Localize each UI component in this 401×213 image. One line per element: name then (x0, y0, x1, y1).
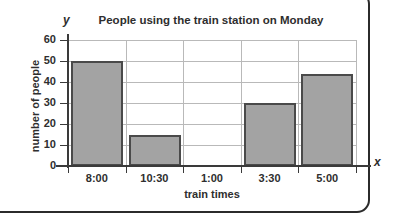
x-axis-line (56, 165, 371, 167)
bar-chart-figure: People using the train station on Monday… (0, 0, 401, 209)
x-tick-label-8:00: 8:00 (68, 172, 126, 184)
x-tick-label-3:30: 3:30 (241, 172, 299, 184)
chart-title: People using the train station on Monday (86, 14, 336, 26)
x-axis-title: train times (68, 188, 356, 200)
y-tick-label: 30 (22, 96, 56, 108)
gridline-vertical (241, 40, 242, 166)
bar-5:00 (301, 74, 353, 166)
plot-area (68, 40, 356, 166)
y-tick-mark (60, 82, 68, 83)
y-tick-label: 60 (22, 33, 56, 45)
bar-3:30 (244, 103, 296, 166)
gridline-vertical (298, 40, 299, 166)
gridline-vertical (183, 40, 184, 166)
bar-8:00 (71, 61, 123, 166)
y-axis-line (67, 34, 69, 168)
y-tick-label: 50 (22, 54, 56, 66)
y-tick-mark (60, 40, 68, 41)
x-tick-mark (356, 166, 357, 173)
y-tick-label: 20 (22, 117, 56, 129)
y-tick-mark (60, 103, 68, 104)
x-axis-symbol: x (374, 155, 381, 169)
y-tick-label: 10 (22, 138, 56, 150)
gridline-vertical (126, 40, 127, 166)
gridline-vertical (356, 40, 357, 166)
x-tick-label-1:00: 1:00 (183, 172, 241, 184)
y-axis-symbol: y (63, 13, 70, 27)
x-tick-label-10:30: 10:30 (126, 172, 184, 184)
x-tick-label-5:00: 5:00 (298, 172, 356, 184)
gridline-horizontal (68, 40, 356, 41)
y-tick-mark (60, 166, 68, 167)
y-tick-mark (60, 61, 68, 62)
y-tick-mark (60, 124, 68, 125)
bar-10:30 (129, 135, 181, 167)
y-tick-label: 0 (22, 159, 56, 171)
y-tick-label: 40 (22, 75, 56, 87)
y-tick-mark (60, 145, 68, 146)
